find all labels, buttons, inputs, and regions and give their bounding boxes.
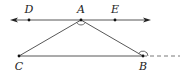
label-b: B — [138, 60, 147, 73]
point-c — [18, 55, 21, 58]
point-b — [142, 55, 145, 58]
geometry-figure: D A E C B — [0, 0, 185, 75]
angle-arc-a — [77, 23, 86, 25]
label-a: A — [76, 3, 85, 16]
point-d — [28, 19, 31, 22]
diagram-canvas: D A E C B — [0, 0, 185, 75]
point-e — [114, 19, 117, 22]
segment-ab — [81, 20, 143, 56]
label-d: D — [24, 3, 34, 16]
point-a — [80, 19, 83, 22]
label-c: C — [15, 60, 24, 73]
label-e: E — [110, 3, 119, 16]
segment-ac — [19, 20, 81, 56]
